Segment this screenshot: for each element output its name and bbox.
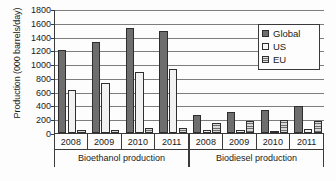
- x-axis-label-2010-bioethanol: 2010: [122, 134, 156, 150]
- y-axis-tick-label: 0: [46, 130, 51, 139]
- y-axis-tick-label: 1400: [31, 33, 51, 42]
- bar-us-2008-biodiesel: [203, 130, 211, 133]
- y-axis-tick-label: 1200: [31, 47, 51, 56]
- bar-global-2009-bioethanol: [92, 42, 100, 133]
- bar-eu-2010-biodiesel: [280, 120, 288, 133]
- bar-us-2009-bioethanol: [101, 83, 109, 133]
- legend: Global US EU: [258, 24, 320, 70]
- x-axis-label-2009-biodiesel: 2009: [223, 134, 257, 150]
- bar-eu-2009-biodiesel: [246, 121, 254, 133]
- bar-chart: Production (000 barrels/day) 02004006008…: [0, 0, 336, 181]
- y-axis-tick-label: 800: [36, 74, 51, 83]
- legend-swatch-global-icon: [262, 30, 269, 37]
- bar-us-2010-biodiesel: [270, 131, 278, 133]
- y-axis-tick-label: 400: [36, 102, 51, 111]
- x-axis-label-2009-bioethanol: 2009: [88, 134, 122, 150]
- x-axis-label-2008-bioethanol: 2008: [54, 134, 88, 150]
- bar-global-2010-biodiesel: [261, 110, 269, 133]
- bar-global-2009-biodiesel: [227, 112, 235, 133]
- legend-item-us: US: [262, 40, 316, 53]
- bar-us-2008-bioethanol: [68, 90, 76, 133]
- x-axis-group-labels: Bioethanol productionBiodiesel productio…: [54, 150, 324, 167]
- y-axis-tick-label: 1800: [31, 6, 51, 15]
- legend-label-eu: EU: [273, 55, 286, 65]
- bar-global-2011-bioethanol: [159, 31, 167, 133]
- bar-eu-2011-biodiesel: [314, 121, 322, 133]
- bar-eu-2009-bioethanol: [111, 130, 119, 133]
- x-axis-year-labels: 20082009201020112008200920102011: [54, 134, 324, 150]
- bar-global-2008-bioethanol: [58, 50, 66, 133]
- legend-label-us: US: [273, 42, 286, 52]
- bar-global-2008-biodiesel: [193, 115, 201, 133]
- x-axis-group-label-bioethanol: Bioethanol production: [54, 150, 189, 167]
- x-axis-label-2008-biodiesel: 2008: [189, 134, 223, 150]
- bar-us-2010-bioethanol: [135, 72, 143, 133]
- bar-us-2009-biodiesel: [236, 130, 244, 133]
- bar-eu-2008-bioethanol: [77, 130, 85, 133]
- bar-eu-2008-biodiesel: [212, 123, 220, 133]
- x-axis-label-2011-bioethanol: 2011: [155, 134, 189, 150]
- bar-us-2011-bioethanol: [169, 69, 177, 133]
- legend-label-global: Global: [273, 29, 300, 39]
- x-axis-label-2010-biodiesel: 2010: [257, 134, 291, 150]
- legend-swatch-eu-icon: [262, 56, 269, 63]
- legend-item-eu: EU: [262, 53, 316, 66]
- legend-swatch-us-icon: [262, 43, 269, 50]
- y-axis-tick-label: 200: [36, 116, 51, 125]
- bar-global-2011-biodiesel: [294, 106, 302, 133]
- y-axis-title: Production (000 barrels/day): [12, 0, 22, 128]
- y-axis-tick-label: 1600: [31, 19, 51, 28]
- bar-eu-2010-bioethanol: [145, 128, 153, 133]
- bar-global-2010-bioethanol: [126, 28, 134, 133]
- bar-eu-2011-bioethanol: [179, 128, 187, 133]
- y-axis-tick-label: 600: [36, 88, 51, 97]
- x-axis-group-label-biodiesel: Biodiesel production: [189, 150, 324, 167]
- legend-item-global: Global: [262, 27, 316, 40]
- y-axis-tick-label: 1000: [31, 61, 51, 70]
- x-axis-label-2011-biodiesel: 2011: [290, 134, 324, 150]
- bar-us-2011-biodiesel: [304, 129, 312, 133]
